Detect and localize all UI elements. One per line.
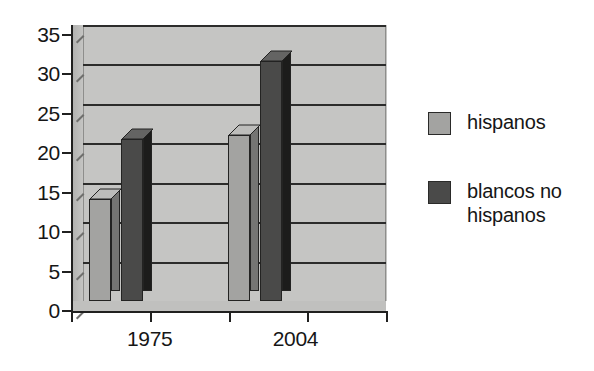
y-tick-mark <box>62 152 72 154</box>
bar-front-face <box>89 199 111 302</box>
plot-floor <box>73 301 386 311</box>
y-tick-label: 5 <box>14 261 60 282</box>
x-tick-mark <box>386 311 388 322</box>
bar-front-face <box>260 61 282 302</box>
plot-side-wall <box>73 25 83 311</box>
legend-item-hispanos: hispanos <box>428 110 588 135</box>
bar-front-face <box>228 135 250 301</box>
gridline <box>83 64 386 66</box>
bar-side-face <box>282 51 291 292</box>
y-tick-label: 20 <box>14 142 60 163</box>
legend-label: hispanos <box>467 110 545 134</box>
y-axis-labels: 35302520151050 <box>14 0 60 371</box>
y-tick-mark <box>62 271 72 273</box>
y-tick-label: 35 <box>14 24 60 45</box>
gridline <box>83 104 386 106</box>
plot-area <box>73 25 386 311</box>
x-tick-mark <box>307 311 309 322</box>
legend-label: blancos no hispanos <box>467 179 588 227</box>
bar-front-face <box>121 139 143 301</box>
y-tick-mark <box>62 73 72 75</box>
x-tick-mark <box>229 311 231 322</box>
y-tick-label: 25 <box>14 103 60 124</box>
bar-top-face <box>228 124 262 136</box>
bar-top-face <box>121 128 155 140</box>
y-tick-mark <box>62 34 72 36</box>
x-category-label: 1975 <box>90 328 210 350</box>
bar-side-face <box>111 189 120 292</box>
y-tick-label: 15 <box>14 182 60 203</box>
bar-top-face <box>89 188 123 200</box>
y-tick-mark <box>62 231 72 233</box>
legend-swatch-icon <box>428 112 451 135</box>
bar <box>228 135 250 301</box>
y-tick-mark <box>62 192 72 194</box>
chart-legend: hispanos blancos no hispanos <box>428 110 588 271</box>
bar-side-face <box>250 125 259 291</box>
x-tick-mark <box>71 311 73 322</box>
bar-chart: 35302520151050 19752004 hispanos blancos… <box>0 0 594 371</box>
y-tick-mark <box>62 113 72 115</box>
y-tick-label: 10 <box>14 221 60 242</box>
y-tick-label: 30 <box>14 63 60 84</box>
y-tick-label: 0 <box>14 300 60 321</box>
gridline <box>83 25 386 27</box>
x-tick-mark <box>150 311 152 322</box>
bar-side-face <box>143 129 152 291</box>
bar-top-face <box>260 50 294 62</box>
legend-swatch-icon <box>428 181 451 204</box>
bar <box>89 199 111 302</box>
legend-item-blancos-no-hispanos: blancos no hispanos <box>428 179 588 227</box>
bar <box>260 61 282 302</box>
bar <box>121 139 143 301</box>
x-category-label: 2004 <box>235 328 355 350</box>
